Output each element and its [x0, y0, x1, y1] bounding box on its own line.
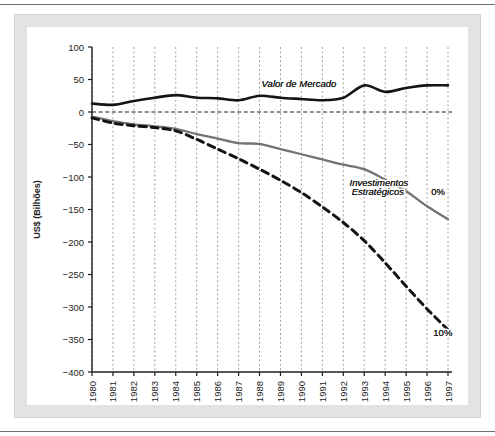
- y-tick-label-8: −300: [63, 302, 84, 313]
- y-tick-label-2: 0: [79, 107, 84, 118]
- series-layer: [92, 85, 448, 330]
- x-tick-label-1981: 1981: [107, 381, 118, 402]
- x-tick-label-1994: 1994: [380, 381, 391, 402]
- annotation-0: Valor de Mercado: [262, 78, 337, 89]
- annotation-2: Estratégicos: [352, 186, 405, 197]
- x-tick-label-1992: 1992: [338, 381, 349, 402]
- y-tick-label-4: −100: [63, 172, 84, 183]
- x-tick-label-1990: 1990: [296, 381, 307, 402]
- annotation-3: 0%: [431, 186, 445, 197]
- chart-plot-area: 100500−50−100−150−200−250−300−350−400198…: [0, 0, 495, 436]
- x-tick-label-1989: 1989: [275, 381, 286, 402]
- line-chart: 100500−50−100−150−200−250−300−350−400198…: [0, 0, 495, 436]
- x-tick-label-1993: 1993: [359, 381, 370, 402]
- x-tick-label-1983: 1983: [149, 381, 160, 402]
- y-tick-label-5: −150: [63, 204, 84, 215]
- y-tick-label-6: −200: [63, 237, 84, 248]
- x-tick-label-1980: 1980: [87, 381, 98, 402]
- x-tick-label-1996: 1996: [422, 381, 433, 402]
- series-line-2: [92, 118, 448, 330]
- y-tick-label-3: −50: [68, 139, 84, 150]
- annotation-4: 10%: [433, 327, 453, 338]
- label-layer: Valor de MercadoValor de MercadoInvestim…: [262, 78, 453, 338]
- axis-layer: 100500−50−100−150−200−250−300−350−400198…: [32, 42, 454, 403]
- y-tick-label-7: −250: [63, 269, 84, 280]
- y-tick-label-1: 50: [73, 74, 84, 85]
- x-tick-label-1986: 1986: [212, 381, 223, 402]
- y-axis-title: US$ (Bilhões): [32, 180, 42, 239]
- x-tick-label-1991: 1991: [317, 381, 328, 402]
- y-tick-label-9: −350: [63, 334, 84, 345]
- x-tick-label-1984: 1984: [170, 381, 181, 402]
- figure-page: 100500−50−100−150−200−250−300−350−400198…: [0, 0, 495, 436]
- x-tick-label-1997: 1997: [443, 381, 454, 402]
- x-tick-label-1987: 1987: [233, 381, 244, 402]
- x-tick-label-1988: 1988: [254, 381, 265, 402]
- y-tick-label-0: 100: [68, 42, 84, 53]
- x-tick-label-1982: 1982: [128, 381, 139, 402]
- series-line-1: [92, 117, 448, 220]
- x-tick-label-1985: 1985: [191, 381, 202, 402]
- x-tick-label-1995: 1995: [401, 381, 412, 402]
- y-tick-label-10: −400: [63, 367, 84, 378]
